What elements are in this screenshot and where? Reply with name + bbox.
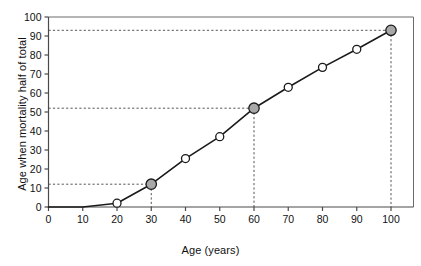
line-chart-plot: 0102030405060708090100010203040506070809… <box>0 0 421 266</box>
y-tick-label-70: 70 <box>30 68 42 80</box>
data-point-20[interactable] <box>113 199 121 207</box>
y-tick-label-0: 0 <box>36 201 42 213</box>
data-point-highlighted-100[interactable] <box>386 25 396 35</box>
x-tick-label-90: 90 <box>351 213 363 225</box>
data-point-50[interactable] <box>216 133 224 141</box>
y-axis-title: Age when mortality half of total <box>16 0 28 229</box>
x-tick-label-30: 30 <box>145 213 157 225</box>
y-tick-label-50: 50 <box>30 106 42 118</box>
x-axis-ticks: 0102030405060708090100 <box>46 207 400 225</box>
x-tick-label-70: 70 <box>282 213 294 225</box>
reference-guides <box>49 30 392 207</box>
y-tick-label-80: 80 <box>30 49 42 61</box>
series-line <box>49 30 392 207</box>
series-markers <box>113 25 396 207</box>
y-tick-label-60: 60 <box>30 87 42 99</box>
y-tick-label-90: 90 <box>30 30 42 42</box>
data-point-80[interactable] <box>319 63 327 71</box>
y-tick-label-10: 10 <box>30 182 42 194</box>
data-point-70[interactable] <box>284 83 292 91</box>
x-tick-label-100: 100 <box>382 213 400 225</box>
x-tick-label-20: 20 <box>111 213 123 225</box>
chart-figure: 0102030405060708090100010203040506070809… <box>0 0 421 266</box>
x-tick-label-50: 50 <box>214 213 226 225</box>
y-tick-label-20: 20 <box>30 163 42 175</box>
x-tick-label-80: 80 <box>317 213 329 225</box>
x-tick-label-0: 0 <box>46 213 52 225</box>
data-point-highlighted-30[interactable] <box>146 179 156 189</box>
y-tick-label-30: 30 <box>30 144 42 156</box>
data-point-40[interactable] <box>182 155 190 163</box>
data-point-90[interactable] <box>353 45 361 53</box>
data-point-highlighted-60[interactable] <box>249 103 259 113</box>
x-tick-label-10: 10 <box>77 213 89 225</box>
x-tick-label-40: 40 <box>180 213 192 225</box>
x-axis-title: Age (years) <box>0 244 421 256</box>
x-tick-label-60: 60 <box>248 213 260 225</box>
y-tick-label-40: 40 <box>30 125 42 137</box>
